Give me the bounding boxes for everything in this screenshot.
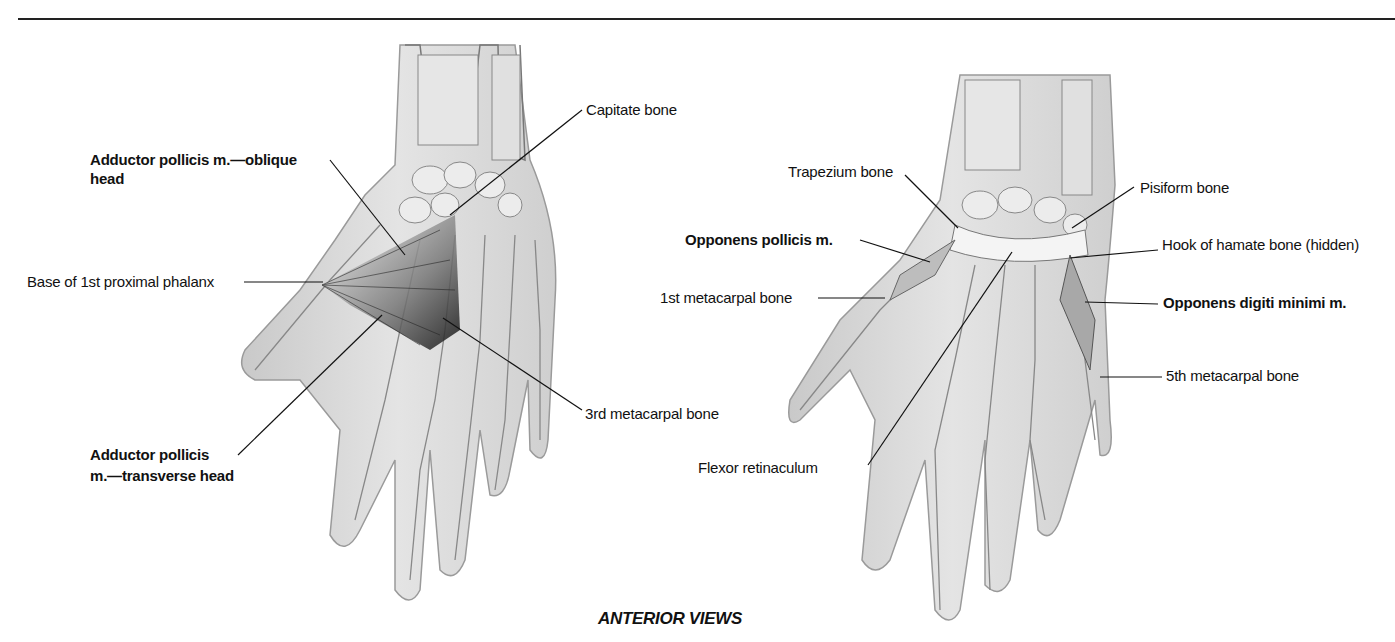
hand-illustrations	[0, 0, 1395, 642]
label-5th-metacarpal-bone: 5th metacarpal bone	[1166, 367, 1299, 385]
label-capitate-bone: Capitate bone	[586, 101, 677, 119]
label-opponens-digiti-minimi: Opponens digiti minimi m.	[1163, 294, 1346, 312]
label-adductor-oblique-line2: head	[90, 170, 124, 188]
label-adductor-transverse-line2: m.—transverse head	[90, 467, 234, 485]
label-opponens-pollicis: Opponens pollicis m.	[685, 231, 833, 249]
label-trapezium-bone: Trapezium bone	[788, 163, 893, 181]
label-base-1st-proximal-phalanx: Base of 1st proximal phalanx	[27, 273, 214, 291]
label-1st-metacarpal-bone: 1st metacarpal bone	[660, 289, 792, 307]
label-pisiform-bone: Pisiform bone	[1140, 179, 1229, 197]
figure-caption: ANTERIOR VIEWS	[598, 609, 742, 629]
label-adductor-oblique-line1: Adductor pollicis m.—oblique	[90, 151, 297, 169]
right-hand	[789, 75, 1115, 620]
left-hand	[242, 45, 556, 600]
label-hook-of-hamate: Hook of hamate bone (hidden)	[1162, 236, 1359, 254]
label-adductor-transverse-line1: Adductor pollicis	[90, 446, 209, 464]
label-flexor-retinaculum: Flexor retinaculum	[698, 459, 818, 477]
label-3rd-metacarpal-bone: 3rd metacarpal bone	[585, 405, 719, 423]
